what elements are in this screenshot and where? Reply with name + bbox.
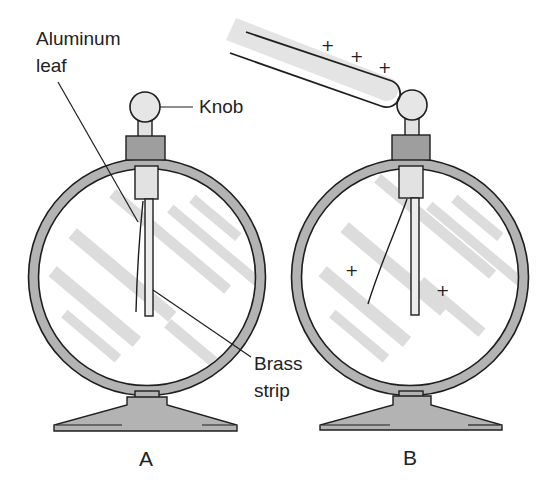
charge-sign-left: +: [345, 261, 358, 280]
glass-glare-a: [48, 189, 265, 366]
caption-b: B: [403, 446, 417, 469]
collar-a: [126, 136, 165, 160]
electroscope-b: + + B: [292, 90, 529, 469]
knob-a: [130, 92, 160, 122]
knob-b: [397, 90, 427, 120]
label-aluminum-leaf-line2: leaf: [36, 55, 67, 76]
charged-rod: + + +: [226, 18, 400, 107]
rod-charge-2: +: [350, 47, 363, 66]
electroscope-diagram: A + + B +: [0, 0, 546, 486]
electroscope-a: A: [29, 92, 266, 470]
brass-strip-b: [411, 198, 419, 315]
label-aluminum-leaf-line1: Aluminum: [36, 28, 120, 49]
caption-a: A: [139, 447, 153, 470]
charge-sign-right: +: [436, 281, 449, 300]
rod-charge-1: +: [321, 36, 334, 55]
tube-a: [135, 166, 158, 199]
rod-charge-3: +: [378, 58, 391, 77]
callouts: Aluminum leaf Knob Brass strip: [36, 28, 303, 401]
collar-b: [392, 135, 430, 160]
label-brass-strip-line1: Brass: [254, 353, 303, 374]
label-knob: Knob: [199, 96, 243, 117]
brass-strip-a: [145, 199, 153, 316]
tube-b: [399, 166, 423, 198]
label-brass-strip-line2: strip: [254, 380, 290, 401]
base-foot-a: [54, 397, 237, 431]
